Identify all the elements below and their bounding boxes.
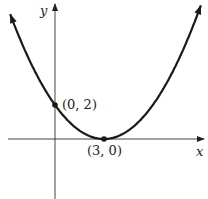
point-label-3-0: (3, 0) (87, 144, 122, 157)
point-3-0 (101, 136, 107, 142)
graph-canvas (0, 0, 208, 199)
x-axis-label: x (196, 145, 203, 158)
point-0-2 (52, 102, 58, 108)
curve-arrowhead (10, 14, 17, 24)
curve-arrowhead (194, 5, 201, 15)
point-label-0-2: (0, 2) (62, 98, 97, 111)
graph: y x (0, 2) (3, 0) (0, 0, 208, 199)
y-axis-label: y (40, 4, 47, 17)
parabola-curve (10, 5, 201, 139)
